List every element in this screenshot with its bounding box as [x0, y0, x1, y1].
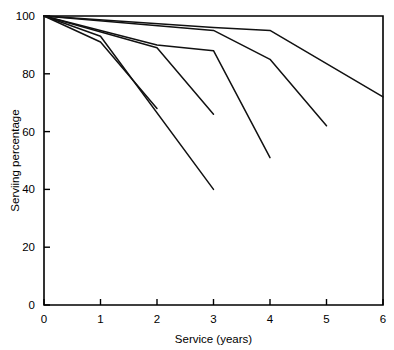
y-tick-label: 40: [22, 183, 35, 195]
y-tick-label: 60: [22, 126, 35, 138]
x-tick-label: 2: [154, 313, 160, 325]
y-tick-label: 80: [22, 68, 35, 80]
x-axis-label: Service (years): [175, 333, 252, 345]
axes: [44, 16, 383, 305]
y-tick-label: 0: [29, 299, 35, 311]
series-curve-3: [44, 16, 270, 158]
x-tick-label: 6: [380, 313, 386, 325]
x-tick-labels: 0123456: [41, 313, 386, 325]
chart-canvas: 0123456 020406080100 Service (years) Ser…: [0, 0, 394, 350]
y-tick-label: 20: [22, 241, 35, 253]
y-tick-label: 100: [16, 10, 35, 22]
x-tick-label: 3: [210, 313, 216, 325]
x-tick-label: 1: [97, 313, 103, 325]
survival-curve-chart: 0123456 020406080100 Service (years) Ser…: [0, 0, 394, 350]
series-curve-2: [44, 16, 327, 126]
x-tick-label: 0: [41, 313, 47, 325]
data-series-group: [44, 16, 383, 189]
x-tick-label: 4: [267, 313, 274, 325]
x-tick-label: 5: [323, 313, 329, 325]
series-curve-5: [44, 16, 214, 189]
x-axis-ticks: [44, 299, 383, 305]
plot-frame: [44, 16, 383, 305]
series-curve-4: [44, 16, 214, 114]
y-axis-label: Serviing percentage: [9, 109, 21, 211]
series-curve-1: [44, 16, 383, 97]
y-axis-ticks: [44, 16, 50, 305]
